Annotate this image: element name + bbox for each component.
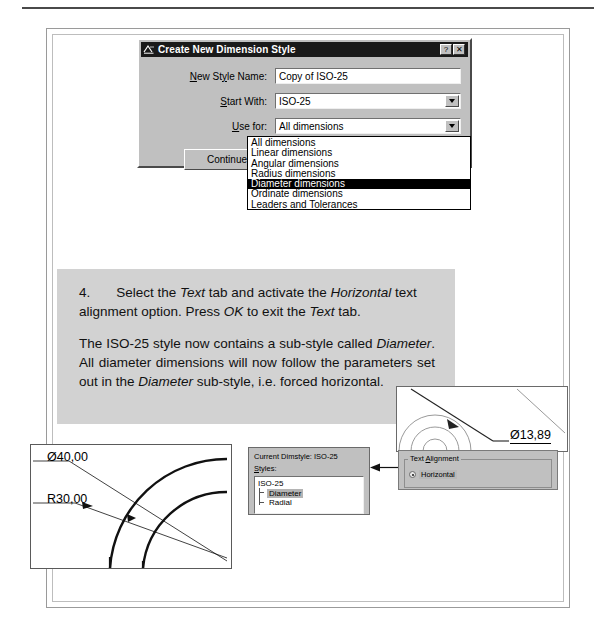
header-rule [22,7,594,9]
diameter-dimension-label-left: Ø40,00 [47,450,88,464]
new-style-name-label: New Style Name: [147,71,267,82]
start-with-label: Start With: [147,96,267,107]
instruction-paragraph-2: The ISO-25 style now contains a sub-styl… [79,334,435,391]
cad-drawing-right: Ø13,89 [396,386,568,452]
dialog-title: Create New Dimension Style [158,44,296,55]
step-number: 4. [79,285,90,300]
radio-selected-icon[interactable] [409,471,416,478]
use-for-label: Use for: [147,121,267,132]
use-for-value: All dimensions [279,121,343,132]
radius-dimension-label-left: R30,00 [47,492,87,506]
start-with-select[interactable]: ISO-25 [275,93,461,109]
dropdown-option[interactable]: Leaders and Tolerances [248,200,470,210]
use-for-select[interactable]: All dimensions [275,118,461,134]
dimstyle-panel: Current Dimstyle: ISO-25 Styles: ISO-25 … [248,447,370,515]
dimension-style-icon [143,44,155,55]
dialog-titlebar[interactable]: Create New Dimension Style ? ✕ [141,42,468,57]
text-alignment-groupbox: Text Alignment Horizontal [404,459,552,488]
horizontal-option-label: Horizontal [419,470,457,479]
use-for-dropdown-list[interactable]: All dimensions Linear dimensions Angular… [247,136,471,210]
instruction-paragraph-1: 4.Select the Text tab and activate the H… [79,283,435,321]
cad-drawing-left: Ø40,00 R30,00 [30,444,232,569]
tree-item-radial[interactable]: Radial [258,498,360,508]
dialog-title-buttons: ? ✕ [440,44,466,55]
text-alignment-panel: Text Alignment Horizontal [398,450,558,490]
styles-label: Styles: [254,464,364,473]
chevron-down-icon[interactable] [445,95,459,107]
tree-item-diameter[interactable]: Diameter [258,489,360,499]
help-button[interactable]: ? [440,44,452,55]
horizontal-radio-row[interactable]: Horizontal [409,470,457,479]
start-with-value: ISO-25 [279,96,311,107]
close-icon[interactable]: ✕ [453,44,465,55]
text-alignment-group-title: Text Alignment [408,454,461,463]
page-root: Create New Dimension Style ? ✕ New Style… [0,0,615,629]
current-dimstyle-label: Current Dimstyle: ISO-25 [254,452,364,461]
new-style-name-input[interactable]: Copy of ISO-25 [275,68,461,84]
chevron-down-icon[interactable] [445,120,459,132]
styles-tree[interactable]: ISO-25 Diameter Radial [254,476,364,514]
tree-root-item[interactable]: ISO-25 [258,479,360,489]
diameter-dimension-label-right: Ø13,89 [510,428,551,444]
